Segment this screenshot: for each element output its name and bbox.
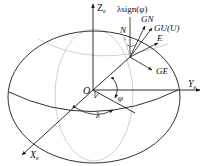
origin-label: O — [83, 86, 90, 96]
gn-label: GN — [141, 15, 154, 24]
gu-vector — [130, 28, 152, 57]
phi-arc — [114, 80, 117, 98]
phi-label: φ — [118, 94, 123, 103]
radius-line — [93, 57, 130, 90]
x-axis — [22, 90, 93, 155]
ellipsoid-outline — [8, 31, 180, 163]
e-label: E — [157, 34, 163, 43]
ge-label: GE — [156, 67, 168, 76]
gu-label: GU(U) — [154, 24, 180, 33]
n-label: N — [120, 26, 126, 35]
lambda-label: λ — [96, 111, 100, 120]
z-axis-label: Ze — [97, 3, 106, 14]
lambda-sign-label: λsign(φ) — [117, 5, 148, 14]
equator-curve — [9, 90, 178, 112]
y-axis-label: Ye — [188, 79, 196, 90]
x-axis-label: Xe — [30, 150, 39, 161]
ge-vector — [130, 57, 152, 70]
